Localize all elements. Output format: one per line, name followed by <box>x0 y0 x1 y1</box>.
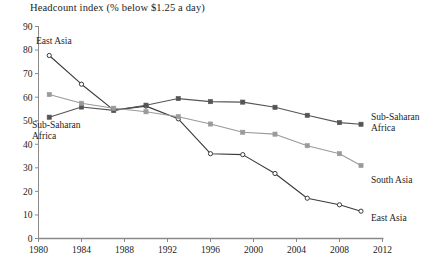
data-point-marker <box>305 113 309 117</box>
data-point-marker <box>305 196 309 200</box>
data-point-marker <box>176 115 180 119</box>
chart-canvas: 0102030405060708090 19801984198819921996… <box>0 0 433 268</box>
annotation-sub-saharan-africa-right-line2: Africa <box>371 123 396 133</box>
data-point-marker <box>112 106 116 110</box>
y-tick-label: 80 <box>23 45 33 55</box>
annotation-sub-saharan-africa-right-line1: Sub-Saharan <box>371 112 420 122</box>
data-point-marker <box>208 122 212 126</box>
data-point-marker <box>208 100 212 104</box>
data-point-marker <box>337 152 341 156</box>
data-series-group <box>47 53 363 213</box>
annotation-sub-saharan-africa-left-line1: Sub-Saharan <box>32 120 81 130</box>
data-point-marker <box>79 82 83 86</box>
data-point-marker <box>47 92 51 96</box>
data-point-marker <box>47 115 51 119</box>
series-line-sub-saharan-africa <box>49 99 361 125</box>
y-tick-label: 60 <box>23 93 33 103</box>
data-point-marker <box>337 121 341 125</box>
y-tick-label: 30 <box>23 163 33 173</box>
data-point-marker <box>359 209 363 213</box>
data-point-marker <box>144 110 148 114</box>
y-tick-label: 0 <box>28 234 33 244</box>
x-tick-label: 2012 <box>373 245 392 255</box>
data-point-marker <box>241 153 245 157</box>
y-tick-label: 40 <box>23 140 33 150</box>
data-point-marker <box>144 103 148 107</box>
y-tick-label: 20 <box>23 187 33 197</box>
x-tick-label: 1992 <box>158 245 177 255</box>
data-point-marker <box>305 144 309 148</box>
x-tick-label: 1984 <box>72 245 91 255</box>
data-point-marker <box>359 122 363 126</box>
data-point-marker <box>273 132 277 136</box>
annotation-south-asia-right: South Asia <box>371 175 413 185</box>
y-tick-label: 10 <box>23 210 33 220</box>
chart-container: Headcount index (% below $1.25 a day) 01… <box>0 0 433 268</box>
y-tick-label: 70 <box>23 69 33 79</box>
data-point-marker <box>337 203 341 207</box>
data-point-marker <box>208 152 212 156</box>
x-tick-label: 2008 <box>330 245 349 255</box>
annotation-east-asia-right: East Asia <box>371 213 407 223</box>
y-tick-label: 90 <box>23 22 33 32</box>
data-point-marker <box>241 100 245 104</box>
data-point-marker <box>176 96 180 100</box>
data-point-marker <box>359 163 363 167</box>
annotation-east-asia-left: East Asia <box>36 36 72 46</box>
x-tick-label: 1980 <box>29 245 48 255</box>
data-point-marker <box>79 101 83 105</box>
x-tick-label: 1996 <box>201 245 220 255</box>
x-axis: 198019841988199219962000200420082012 <box>29 239 392 255</box>
data-point-marker <box>47 53 51 57</box>
data-point-marker <box>273 105 277 109</box>
x-tick-label: 2000 <box>244 245 263 255</box>
series-line-east-asia <box>49 55 361 211</box>
x-tick-label: 1988 <box>115 245 134 255</box>
x-tick-label: 2004 <box>287 245 306 255</box>
data-point-marker <box>241 130 245 134</box>
annotation-sub-saharan-africa-left-line2: Africa <box>32 131 57 141</box>
series-line-south-asia <box>49 95 361 166</box>
data-point-marker <box>273 171 277 175</box>
series-annotations: East AsiaSub-SaharanAfricaSub-SaharanAfr… <box>32 36 420 223</box>
